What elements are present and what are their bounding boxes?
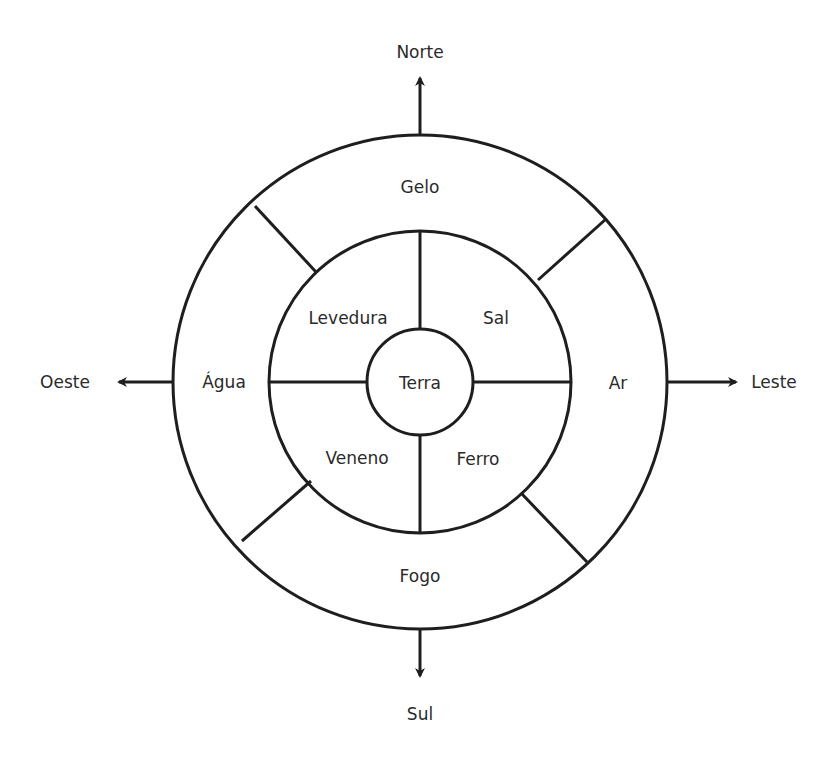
- outer-label-right: Ar: [609, 373, 628, 393]
- outer-divider-bottom-left: [242, 481, 311, 541]
- compass-diagram: Norte Sul Oeste Leste Gelo Ar Fogo Água …: [0, 0, 835, 758]
- outer-label-bottom: Fogo: [400, 566, 441, 586]
- label-south: Sul: [407, 704, 433, 724]
- outer-divider-top-left: [255, 206, 316, 272]
- label-east: Leste: [751, 372, 797, 392]
- inner-label-bottom-right: Ferro: [456, 449, 499, 469]
- outer-label-left: Água: [202, 371, 246, 392]
- inner-label-bottom-left: Veneno: [325, 448, 388, 468]
- outer-label-top: Gelo: [401, 177, 440, 197]
- outer-divider-bottom-right: [522, 494, 587, 562]
- label-north: Norte: [396, 42, 443, 62]
- inner-label-top-right: Sal: [483, 308, 509, 328]
- inner-label-top-left: Levedura: [308, 308, 387, 328]
- outer-divider-top-right: [538, 219, 606, 280]
- center-label: Terra: [398, 373, 441, 393]
- label-west: Oeste: [40, 372, 90, 392]
